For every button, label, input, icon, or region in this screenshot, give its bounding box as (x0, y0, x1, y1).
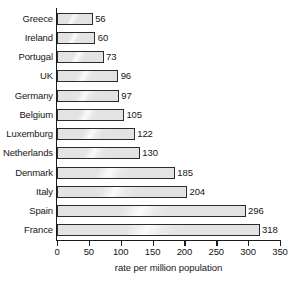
category-label-denmark: Denmark (15, 168, 53, 178)
category-label-belgium: Belgium (19, 110, 53, 120)
bar-row: Netherlands130 (57, 144, 280, 163)
x-tick-mark (89, 241, 90, 246)
x-tick-label: 200 (177, 247, 193, 257)
bar-row: Ireland60 (57, 28, 280, 47)
bar-france: 318 (57, 224, 260, 236)
bar-value-label: 318 (262, 226, 278, 236)
x-tick-mark (280, 241, 281, 246)
category-label-france: France (24, 226, 53, 236)
category-label-italy: Italy (36, 187, 53, 197)
bar-value-label: 204 (189, 187, 205, 197)
x-tick-mark (216, 241, 217, 246)
bar-denmark: 185 (57, 167, 175, 179)
bar-spain: 296 (57, 205, 246, 217)
bar-uk: 96 (57, 70, 118, 82)
bar-belgium: 105 (57, 109, 124, 121)
x-axis-title: rate per million population (57, 263, 280, 273)
category-label-spain: Spain (29, 206, 53, 216)
bar-germany: 97 (57, 90, 119, 102)
bar-row: France318 (57, 221, 280, 240)
bar-value-label: 96 (121, 72, 131, 82)
x-tick-mark (248, 241, 249, 246)
bar-value-label: 130 (142, 149, 158, 159)
x-tick-label: 150 (145, 247, 161, 257)
bar-value-label: 73 (106, 52, 116, 62)
bar-row: Portugal73 (57, 48, 280, 67)
x-tick-label: 250 (209, 247, 225, 257)
bar-italy: 204 (57, 186, 187, 198)
bar-netherlands: 130 (57, 147, 140, 159)
plot-area: Greece56Ireland60Portugal73UK96Germany97… (57, 9, 280, 240)
bar-greece: 56 (57, 13, 93, 25)
bar-value-label: 56 (95, 14, 105, 24)
x-tick-label: 50 (84, 247, 94, 257)
bar-row: Luxemburg122 (57, 125, 280, 144)
category-label-germany: Germany (15, 91, 53, 101)
bar-value-label: 105 (126, 110, 142, 120)
category-label-uk: UK (40, 72, 53, 82)
x-tick-mark (57, 241, 58, 246)
bar-value-label: 296 (248, 206, 264, 216)
category-label-greece: Greece (22, 14, 53, 24)
bar-value-label: 97 (121, 91, 131, 101)
bar-ireland: 60 (57, 32, 95, 44)
bar-value-label: 185 (177, 168, 193, 178)
x-tick-label: 300 (240, 247, 256, 257)
category-label-luxemburg: Luxemburg (6, 129, 53, 139)
bar-row: Germany97 (57, 86, 280, 105)
x-tick-mark (184, 241, 185, 246)
x-tick-label: 0 (54, 247, 59, 257)
category-label-portugal: Portugal (18, 52, 53, 62)
x-tick-mark (121, 241, 122, 246)
x-tick-label: 100 (113, 247, 129, 257)
category-label-netherlands: Netherlands (3, 149, 53, 159)
bar-row: Belgium105 (57, 105, 280, 124)
bar-luxemburg: 122 (57, 128, 135, 140)
bar-value-label: 60 (98, 33, 108, 43)
x-tick-label: 350 (272, 247, 288, 257)
category-label-ireland: Ireland (25, 33, 53, 43)
bar-row: Denmark185 (57, 163, 280, 182)
bar-row: UK96 (57, 67, 280, 86)
bar-row: Greece56 (57, 9, 280, 28)
x-tick-mark (153, 241, 154, 246)
bar-value-label: 122 (137, 129, 153, 139)
bar-portugal: 73 (57, 51, 104, 63)
bar-row: Spain296 (57, 202, 280, 221)
bar-row: Italy204 (57, 182, 280, 201)
bar-chart: Greece56Ireland60Portugal73UK96Germany97… (0, 0, 295, 285)
